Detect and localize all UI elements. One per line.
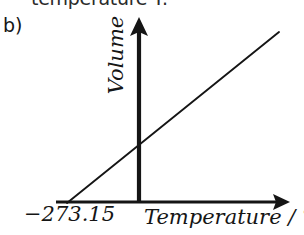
figure-container: temperature T. b) Volume Temperature / °… <box>0 0 304 235</box>
volume-temperature-plot <box>0 0 304 235</box>
y-axis-title: Volume <box>105 18 127 92</box>
x-intercept-label: −273.15 <box>24 203 115 226</box>
y-axis-title-text: Volume <box>106 16 127 94</box>
x-axis-title: Temperature / °C <box>144 206 304 229</box>
data-line-volume-vs-temperature <box>67 32 279 203</box>
